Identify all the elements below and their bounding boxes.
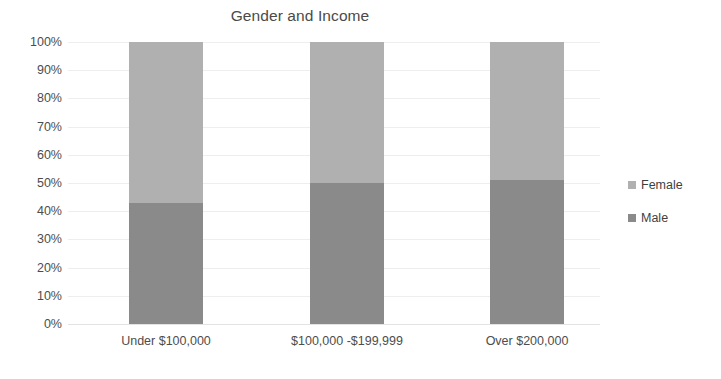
- x-axis-tick-label: $100,000 -$199,999: [291, 334, 403, 348]
- y-axis-tick-label: 50%: [0, 176, 62, 190]
- bar-segment-male[interactable]: [129, 203, 203, 324]
- y-axis-tick-label: 60%: [0, 148, 62, 162]
- x-axis-tick-label: Over $200,000: [486, 334, 569, 348]
- legend-swatch-male-icon: [628, 214, 636, 222]
- bar-segment-male[interactable]: [490, 180, 564, 324]
- legend-item-male[interactable]: Male: [628, 209, 718, 226]
- y-axis: 0%10%20%30%40%50%60%70%80%90%100%: [0, 42, 62, 324]
- y-axis-tick-label: 10%: [0, 289, 62, 303]
- y-axis-tick-label: 90%: [0, 63, 62, 77]
- gridline: [68, 324, 600, 325]
- y-axis-tick-label: 30%: [0, 232, 62, 246]
- chart-title: Gender and Income: [0, 7, 600, 25]
- y-axis-tick-label: 40%: [0, 204, 62, 218]
- legend-label: Male: [641, 211, 668, 225]
- chart-legend: FemaleMale: [628, 176, 718, 242]
- bar-stack: [129, 42, 203, 324]
- y-axis-tick-label: 70%: [0, 120, 62, 134]
- plot-area: [68, 42, 600, 324]
- y-axis-tick-label: 80%: [0, 91, 62, 105]
- bar-group[interactable]: [129, 42, 203, 324]
- bar-segment-female[interactable]: [129, 42, 203, 203]
- bar-segment-female[interactable]: [310, 42, 384, 183]
- y-axis-tick-label: 20%: [0, 261, 62, 275]
- legend-swatch-female-icon: [628, 181, 636, 189]
- bar-group[interactable]: [490, 42, 564, 324]
- chart-container: Gender and Income 0%10%20%30%40%50%60%70…: [0, 0, 721, 379]
- bar-stack: [310, 42, 384, 324]
- legend-label: Female: [641, 178, 683, 192]
- bar-segment-female[interactable]: [490, 42, 564, 180]
- x-axis-tick-label: Under $100,000: [121, 334, 211, 348]
- bar-segment-male[interactable]: [310, 183, 384, 324]
- y-axis-tick-label: 0%: [0, 317, 62, 331]
- bar-group[interactable]: [310, 42, 384, 324]
- bar-stack: [490, 42, 564, 324]
- y-axis-tick-label: 100%: [0, 35, 62, 49]
- legend-item-female[interactable]: Female: [628, 176, 718, 193]
- x-axis: Under $100,000$100,000 -$199,999Over $20…: [68, 334, 600, 360]
